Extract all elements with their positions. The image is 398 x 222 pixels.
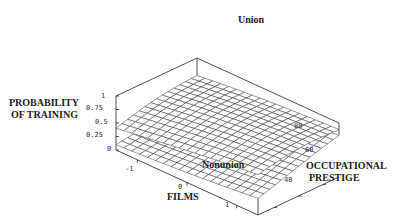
z-tick-075: 0.75	[86, 104, 103, 112]
y-axis-label-line1: OCCUPATIONAL	[306, 160, 387, 172]
x-tick-1: 1	[225, 201, 229, 209]
z-axis-label-line1: PROBABILITY	[9, 97, 79, 109]
z-tick-025: 0.25	[86, 131, 103, 139]
y-tick-60: 60	[305, 146, 313, 154]
z-axis-label-line2: OF TRAINING	[11, 109, 78, 121]
x-axis-label: FILMS	[167, 191, 199, 203]
surfaces	[116, 76, 339, 199]
x-tick-neg1: -1	[125, 165, 133, 173]
y-tick-80: 80	[294, 122, 302, 130]
z-tick-0: 0	[107, 145, 111, 153]
x-tick-0: 0	[178, 183, 182, 191]
z-tick-1: 1	[101, 92, 105, 100]
union-label: Union	[238, 14, 264, 26]
z-tick-05: 0.5	[95, 118, 108, 126]
nonunion-label: Nonunion	[202, 159, 244, 171]
y-tick-40: 40	[284, 176, 292, 184]
y-axis-label-line2: PRESTIGE	[309, 172, 360, 184]
